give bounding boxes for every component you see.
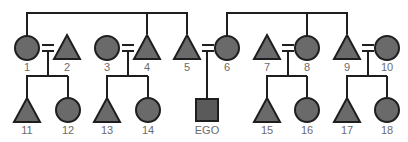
- person-12-female-icon: [56, 98, 80, 122]
- person-17-male-icon: [334, 98, 360, 122]
- person-16-label: 16: [301, 124, 313, 136]
- person-2-male-icon: [54, 35, 80, 59]
- person-6-label: 6: [224, 61, 230, 73]
- ego-square-icon: [196, 99, 218, 121]
- person-18-female-icon: [375, 98, 399, 122]
- person-3-female-icon: [95, 36, 119, 60]
- person-14-female-icon: [136, 98, 160, 122]
- person-2-label: 2: [64, 61, 70, 73]
- person-13-male-icon: [94, 98, 120, 122]
- marriage-5-6: [202, 45, 214, 98]
- person-8-female-icon: [295, 36, 319, 60]
- person-14-label: 14: [142, 124, 154, 136]
- person-15-label: 15: [261, 124, 273, 136]
- person-5-male-icon: [174, 35, 200, 59]
- person-10-female-icon: [375, 36, 399, 60]
- person-1-female-icon: [15, 36, 39, 60]
- person-6-female-icon: [215, 36, 239, 60]
- person-4-male-icon: [134, 35, 160, 59]
- person-13-label: 13: [101, 124, 113, 136]
- ego-label: EGO: [195, 124, 220, 136]
- sibling-line-right: [227, 13, 347, 36]
- person-15-male-icon: [254, 98, 280, 122]
- person-17-label: 17: [341, 124, 353, 136]
- person-5-label: 5: [184, 61, 190, 73]
- person-9-male-icon: [334, 35, 360, 59]
- person-3-label: 3: [104, 61, 110, 73]
- kinship-diagram: 1 2 3 4 5 6 7 8 9 10 11 12 13 14 EGO 15 …: [0, 0, 408, 142]
- person-18-label: 18: [381, 124, 393, 136]
- person-7-label: 7: [264, 61, 270, 73]
- person-1-label: 1: [24, 61, 30, 73]
- person-10-label: 10: [381, 61, 393, 73]
- sibling-line-left: [27, 13, 187, 36]
- person-4-label: 4: [144, 61, 150, 73]
- person-7-male-icon: [254, 35, 280, 59]
- person-9-label: 9: [344, 61, 350, 73]
- person-16-female-icon: [295, 98, 319, 122]
- person-11-male-icon: [14, 98, 40, 122]
- person-12-label: 12: [62, 124, 74, 136]
- person-8-label: 8: [304, 61, 310, 73]
- person-11-label: 11: [21, 124, 32, 136]
